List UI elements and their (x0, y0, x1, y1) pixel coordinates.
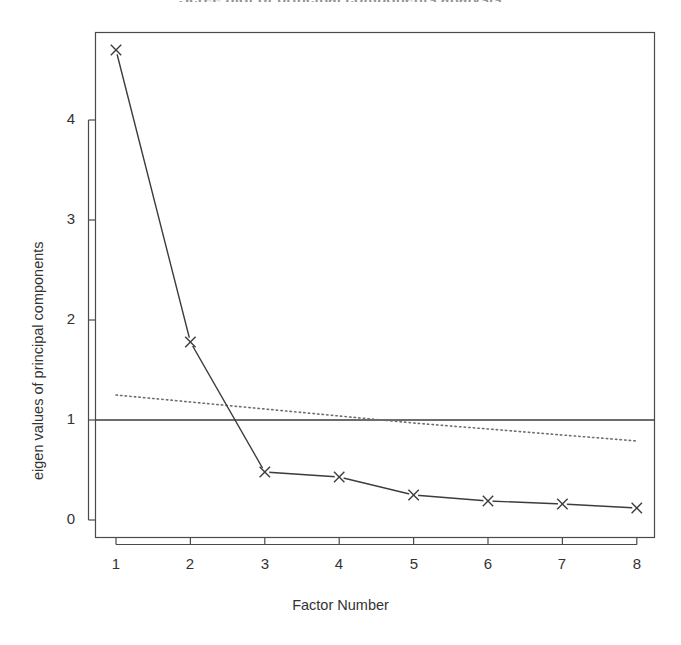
y-tick-label-4: 4 (62, 110, 80, 127)
y-tick-label-2: 2 (62, 310, 80, 327)
series-actual-line (116, 50, 637, 508)
x-tick-label-1: 1 (107, 555, 125, 572)
y-tick-label-0: 0 (62, 510, 80, 527)
plot-frame (96, 33, 655, 538)
chart-canvas (0, 0, 681, 645)
x-tick-label-6: 6 (479, 555, 497, 572)
series-actual-x-markers (111, 45, 642, 513)
x-tick-label-4: 4 (330, 555, 348, 572)
x-tick-label-7: 7 (553, 555, 571, 572)
y-axis (89, 120, 96, 520)
series-simulated-dotted-line (116, 395, 637, 441)
scree-plot-figure: Scree plot of principal components analy… (0, 0, 681, 645)
x-tick-label-8: 8 (628, 555, 646, 572)
x-axis-label: Factor Number (0, 597, 681, 613)
x-tick-label-5: 5 (405, 555, 423, 572)
x-axis (116, 538, 637, 545)
x-tick-label-3: 3 (256, 555, 274, 572)
y-tick-label-3: 3 (62, 210, 80, 227)
x-tick-label-2: 2 (181, 555, 199, 572)
y-axis-label: eigen values of principal components (30, 241, 46, 480)
y-tick-label-1: 1 (62, 410, 80, 427)
